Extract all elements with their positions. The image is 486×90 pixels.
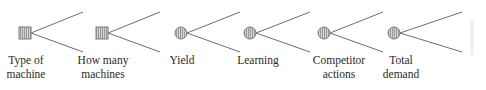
label-line-2: demand xyxy=(383,68,419,82)
node-label-competitor-actions: Competitor actions xyxy=(313,54,365,81)
circle-node-icon xyxy=(244,27,256,39)
node-label-type-of-machine: Type of machine xyxy=(7,54,46,81)
node-label-how-many-machines: How many machines xyxy=(78,54,129,81)
node-label-learning: Learning xyxy=(237,54,279,68)
branch-line-lower xyxy=(108,33,160,52)
branch-line-upper xyxy=(187,12,240,33)
node-label-yield: Yield xyxy=(170,54,195,68)
label-line-1: Learning xyxy=(237,54,279,68)
label-line-1: How many xyxy=(78,54,129,68)
label-line-1: Type of xyxy=(7,54,46,68)
label-line-1: Yield xyxy=(170,54,195,68)
circle-node-icon xyxy=(388,27,400,39)
node-label-total-demand: Total demand xyxy=(383,54,419,81)
label-line-2: machines xyxy=(78,68,129,82)
branch-line-lower xyxy=(256,33,310,52)
branch-line-upper xyxy=(108,12,160,33)
circle-node-icon xyxy=(175,27,187,39)
branch-line-lower xyxy=(330,33,383,52)
decision-node-how-many-machines xyxy=(96,12,160,52)
branch-line-upper xyxy=(400,12,462,33)
circle-node-icon xyxy=(318,27,330,39)
square-node-icon xyxy=(96,27,108,39)
branch-line-lower xyxy=(31,33,83,52)
square-node-icon xyxy=(19,27,31,39)
label-line-2: machine xyxy=(7,68,46,82)
branch-line-lower xyxy=(187,33,240,52)
chance-node-total-demand xyxy=(388,12,462,52)
branch-line-upper xyxy=(330,12,383,33)
chance-node-learning xyxy=(244,12,310,52)
chance-node-yield xyxy=(175,12,240,52)
chance-node-competitor-actions xyxy=(318,12,383,52)
branch-line-lower xyxy=(400,33,462,52)
label-line-2: actions xyxy=(313,68,365,82)
branch-line-upper xyxy=(256,12,310,33)
label-line-1: Total xyxy=(383,54,419,68)
label-line-1: Competitor xyxy=(313,54,365,68)
decision-node-type-of-machine xyxy=(19,12,83,52)
branch-line-upper xyxy=(31,12,83,33)
